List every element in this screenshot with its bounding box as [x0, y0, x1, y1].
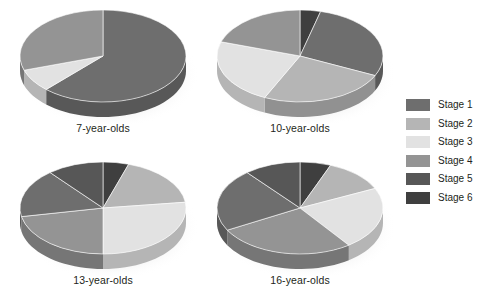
legend-swatch-1 [406, 99, 430, 111]
legend-label-3: Stage 3 [438, 136, 472, 148]
pie-svg-0 [8, 4, 198, 124]
pie-caption-13-year-olds: 13-year-olds [8, 274, 198, 286]
legend-label-2: Stage 2 [438, 118, 472, 130]
pie-panel-10-year-olds: 10-year-olds [205, 4, 395, 149]
legend-item-3: Stage 3 [406, 136, 490, 148]
legend-item-4: Stage 4 [406, 155, 490, 167]
pie-chart-figure: 7-year-olds 10-year-olds 13-year-olds 16… [0, 0, 492, 302]
legend-label-4: Stage 4 [438, 155, 472, 167]
pie-caption-16-year-olds: 16-year-olds [205, 274, 395, 286]
pie-panel-16-year-olds: 16-year-olds [205, 156, 395, 301]
pie-chart-16-year-olds [205, 156, 395, 276]
legend-label-1: Stage 1 [438, 99, 472, 111]
pie-top-face [217, 162, 383, 254]
pie-panel-13-year-olds: 13-year-olds [8, 156, 198, 301]
pie-chart-13-year-olds [8, 156, 198, 276]
pie-top-face [217, 10, 383, 102]
legend-swatch-3 [406, 136, 430, 148]
legend-item-6: Stage 6 [406, 192, 490, 204]
pie-svg-2 [8, 156, 198, 276]
pie-caption-10-year-olds: 10-year-olds [205, 122, 395, 134]
pie-svg-1 [205, 4, 395, 124]
legend-swatch-4 [406, 155, 430, 167]
pie-svg-3 [205, 156, 395, 276]
legend-item-5: Stage 5 [406, 173, 490, 185]
legend-swatch-6 [406, 192, 430, 204]
pie-top-face [20, 10, 186, 102]
legend-label-6: Stage 6 [438, 192, 472, 204]
pie-top-face [20, 162, 186, 254]
pie-caption-7-year-olds: 7-year-olds [8, 122, 198, 134]
legend-item-2: Stage 2 [406, 118, 490, 130]
pie-chart-10-year-olds [205, 4, 395, 124]
pie-panel-7-year-olds: 7-year-olds [8, 4, 198, 149]
legend-swatch-2 [406, 118, 430, 130]
legend-swatch-5 [406, 173, 430, 185]
pie-chart-7-year-olds [8, 4, 198, 124]
legend-label-5: Stage 5 [438, 173, 472, 185]
legend: Stage 1Stage 2Stage 3Stage 4Stage 5Stage… [406, 99, 490, 211]
legend-item-1: Stage 1 [406, 99, 490, 111]
